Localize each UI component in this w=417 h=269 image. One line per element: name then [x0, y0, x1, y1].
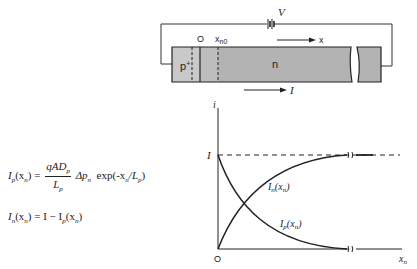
equation-in: In(xn) = I − Ip(xn): [8, 210, 82, 225]
x-axis-label: xn: [398, 253, 407, 266]
y-axis-label: i: [213, 99, 216, 110]
current-arrow: [244, 88, 287, 93]
x-direction-arrow: [277, 38, 316, 43]
equation-ip: Ip(xn) = qADp Lp Δpn exp(-xn/Lp): [8, 160, 145, 193]
diagram-canvas: V p+ n O xn0 x I i O xn I In(xn): [0, 0, 417, 269]
xn0-label: xn0: [215, 34, 227, 45]
graph-origin-label: O: [214, 254, 221, 264]
battery-icon: [268, 19, 274, 29]
current-label: I: [289, 84, 295, 96]
y-tick-I: I: [206, 149, 212, 161]
n-region: [218, 47, 352, 82]
curve-break-mark: [348, 152, 353, 158]
x-direction-label: x: [319, 35, 324, 45]
fraction: qADp Lp: [45, 160, 71, 193]
origin-label: O: [197, 34, 204, 44]
curve-label-In: In(xn): [267, 181, 290, 194]
depletion-region: [200, 47, 218, 82]
n-region-far-end: [357, 47, 381, 82]
curve-label-Ip: Ip(xn): [279, 218, 302, 231]
voltage-label: V: [278, 6, 286, 18]
n-label: n: [272, 58, 278, 70]
curve-Ip: [218, 155, 347, 249]
curve-In: [218, 155, 347, 249]
graph-axes: [218, 108, 402, 252]
